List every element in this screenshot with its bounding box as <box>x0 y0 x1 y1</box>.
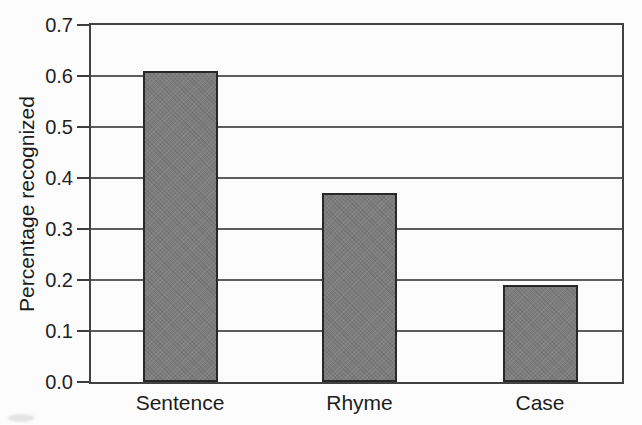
bar-case <box>503 285 578 382</box>
y-tick-label-0.6: 0.6 <box>25 64 73 88</box>
bar-rhyme <box>322 193 397 382</box>
y-axis-title: Percentage recognized <box>15 54 39 354</box>
x-category-label-case: Case <box>460 391 620 415</box>
y-tick-0.1 <box>77 330 89 332</box>
y-tick-label-0.7: 0.7 <box>25 13 73 37</box>
y-tick-0.7 <box>77 24 89 26</box>
y-tick-label-0.3: 0.3 <box>25 217 73 241</box>
y-tick-0.6 <box>77 75 89 77</box>
y-tick-0.4 <box>77 177 89 179</box>
bar-sentence <box>143 71 218 382</box>
y-tick-label-0.1: 0.1 <box>25 319 73 343</box>
bar-chart-figure: Percentage recognized 0.00.10.20.30.40.5… <box>0 0 642 425</box>
x-category-label-sentence: Sentence <box>100 391 260 415</box>
y-tick-0.3 <box>77 228 89 230</box>
y-tick-label-0.2: 0.2 <box>25 268 73 292</box>
scan-artifact <box>8 414 34 422</box>
x-category-label-rhyme: Rhyme <box>280 391 440 415</box>
y-tick-label-0: 0.0 <box>25 370 73 394</box>
y-tick-label-0.5: 0.5 <box>25 115 73 139</box>
y-tick-0.5 <box>77 126 89 128</box>
y-tick-0 <box>77 381 89 383</box>
y-tick-label-0.4: 0.4 <box>25 166 73 190</box>
y-tick-0.2 <box>77 279 89 281</box>
